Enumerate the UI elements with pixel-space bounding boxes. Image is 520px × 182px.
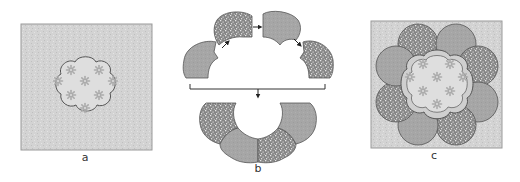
panel-a (21, 24, 152, 150)
petal-speckled-right (300, 41, 333, 78)
panel-b (183, 11, 333, 162)
quilt-block-diagram (0, 0, 520, 182)
panel-label-a: a (82, 152, 89, 163)
bracket (190, 84, 325, 89)
panel-label-c: c (431, 150, 437, 161)
petal-solid-left (183, 41, 218, 78)
panel-label-b: b (255, 163, 262, 174)
panel-c (371, 21, 502, 148)
join-arrow-3 (294, 39, 300, 45)
petal-speckled-top-left (214, 12, 252, 45)
join-arrow-1 (222, 42, 228, 48)
